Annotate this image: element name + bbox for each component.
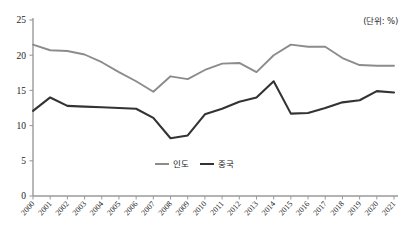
legend-swatch-india [155,163,169,165]
svg-text:2000: 2000 [19,199,36,217]
legend-swatch-china [200,163,214,165]
y-axis: 0510152025 [17,15,34,201]
svg-text:0: 0 [21,191,26,201]
svg-text:25: 25 [17,15,27,25]
svg-text:2015: 2015 [277,199,294,217]
svg-text:2011: 2011 [208,199,225,217]
svg-text:2021: 2021 [380,199,397,217]
svg-text:2012: 2012 [225,199,242,217]
x-tick-labels: 2000200120022003200420052006200720082009… [19,199,397,217]
svg-text:2008: 2008 [157,199,174,217]
svg-text:2006: 2006 [122,199,139,217]
svg-text:2020: 2020 [363,199,380,217]
svg-text:2017: 2017 [311,199,328,217]
svg-text:2002: 2002 [53,199,70,217]
svg-text:2019: 2019 [346,199,363,217]
legend-label-india: 인도 [173,160,189,169]
svg-text:10: 10 [17,121,27,131]
legend-item-india: 인도 [155,160,189,169]
svg-text:2001: 2001 [36,199,53,217]
svg-text:2003: 2003 [71,199,88,217]
svg-text:2005: 2005 [105,199,122,217]
svg-text:20: 20 [17,51,27,61]
svg-text:2009: 2009 [174,199,191,217]
svg-text:2018: 2018 [329,199,346,217]
svg-text:2007: 2007 [139,199,156,217]
legend-item-china: 중국 [200,160,234,169]
chart-legend: 인도 중국 [155,160,234,169]
line-chart: (단위: %) 0510152025 200020012002200320042… [0,0,406,252]
svg-text:2016: 2016 [294,199,311,217]
x-axis [33,196,398,200]
svg-text:2010: 2010 [191,199,208,217]
svg-text:2014: 2014 [260,199,277,217]
legend-label-china: 중국 [218,160,234,169]
svg-text:2013: 2013 [243,199,260,217]
svg-text:2004: 2004 [88,199,105,217]
svg-text:15: 15 [17,86,27,96]
chart-canvas: 0510152025 20002001200220032004200520062… [0,0,406,252]
series-lines [33,45,394,139]
svg-text:5: 5 [21,156,26,166]
